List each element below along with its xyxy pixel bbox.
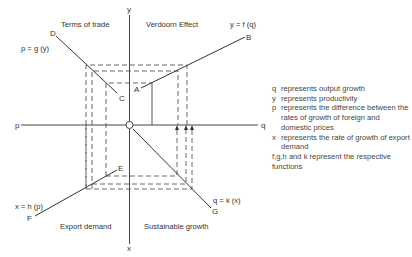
legend-symbol: y (272, 94, 281, 104)
legend-text: represents output growth (281, 84, 412, 94)
point-label-C: C (119, 94, 125, 103)
legend-symbol: x (272, 133, 281, 152)
axis-label-p: p (15, 121, 20, 130)
point-label-F: F (27, 214, 32, 223)
outer-projection-top (86, 65, 187, 189)
legend-item-y: y represents productivity (272, 94, 412, 104)
legend-symbol: q (272, 84, 281, 94)
axis-label-q: q (261, 121, 265, 130)
function-label-h: x = h (p) (15, 202, 44, 211)
point-label-E: E (118, 164, 123, 173)
axis-label-x: x (127, 244, 131, 253)
line-OG (133, 129, 211, 208)
q-axis-arrows (175, 125, 194, 130)
legend-item-q: q represents output growth (272, 84, 412, 94)
quadrant-title-terms-of-trade: Terms of trade (61, 20, 110, 29)
legend: q represents output growth y represents … (272, 84, 412, 171)
legend-symbol: p (272, 103, 281, 132)
point-label-D: D (50, 29, 56, 38)
legend-text: represents productivity (281, 94, 412, 104)
function-label-k: q = k (x) (213, 196, 241, 205)
function-label-f: y = f (q) (230, 20, 256, 29)
point-label-G: G (212, 207, 218, 216)
function-lines (35, 36, 245, 216)
quadrant-title-export-demand: Export demand (60, 222, 112, 231)
inner-projection-bottom (106, 127, 177, 176)
quadrant-title-verdoorn-effect: Verdoorn Effect (146, 20, 199, 29)
axes (21, 15, 258, 244)
line-AB (141, 37, 245, 88)
point-label-B: B (246, 33, 251, 42)
legend-text: represents the difference between the ra… (281, 103, 412, 132)
legend-footer-symbol: f,g,h and k (272, 152, 307, 161)
origin-circle (126, 122, 133, 129)
legend-item-p: p represents the difference between the … (272, 103, 412, 132)
projection-lines (86, 65, 192, 189)
legend-item-x: x represents the rate of growth of expor… (272, 133, 412, 152)
arrow-up-icon (184, 125, 188, 130)
arrow-up-icon (175, 125, 179, 130)
axis-label-y: y (127, 5, 131, 14)
function-label-g: p = g (y) (21, 44, 50, 53)
line-DC (56, 36, 117, 93)
legend-footer: f,g,h and k represent the respective fun… (272, 152, 412, 171)
arrow-up-icon (190, 125, 194, 130)
line-EF (35, 170, 117, 216)
legend-text: represents the rate of growth of export … (281, 133, 412, 152)
point-label-A: A (134, 85, 140, 94)
quadrant-title-sustainable-growth: Sustainable growth (144, 222, 209, 231)
